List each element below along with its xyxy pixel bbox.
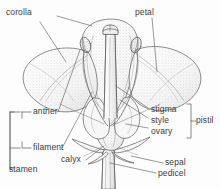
label-anther: anther [33, 107, 58, 116]
bracket-filament [22, 142, 31, 148]
label-corolla: corolla [6, 8, 32, 17]
label-pistil: pistil [196, 116, 214, 125]
label-sepal: sepal [165, 158, 186, 167]
leader-pedicel [110, 163, 156, 173]
bracket-stamen-outer [10, 112, 14, 168]
bracket-anther [22, 112, 31, 118]
leader-corolla-upper [57, 16, 92, 26]
style-shape [104, 34, 117, 118]
flower-anatomy-diagram: corolla petal anther filament stamen sti… [0, 0, 220, 189]
label-stigma: stigma [151, 105, 177, 114]
label-filament: filament [33, 143, 64, 152]
leader-sepal [131, 156, 163, 163]
label-petal: petal [135, 8, 154, 17]
stigma-shape [103, 25, 118, 34]
flower-illustration [0, 0, 220, 189]
petal-right-shape [129, 46, 201, 110]
label-stamen: stamen [9, 165, 37, 174]
bracket-pistil [187, 104, 191, 138]
label-ovary: ovary [151, 127, 172, 136]
label-calyx: calyx [61, 155, 81, 164]
label-pedicel: pedicel [158, 169, 186, 178]
label-style: style [151, 116, 169, 125]
